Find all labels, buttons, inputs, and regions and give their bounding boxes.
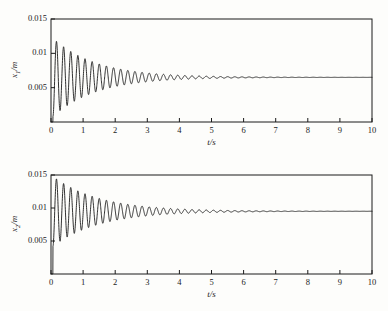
x-axis-label-x1: t/s xyxy=(192,137,232,147)
data-curve-x2 xyxy=(51,179,372,274)
x-tick-label: 10 xyxy=(352,125,388,135)
y-tick-label: 0.015 xyxy=(5,169,47,179)
axis-frame xyxy=(51,19,372,122)
chart-panel-x2: x2/m t/s xyxy=(0,156,388,311)
y-tick-label: 0.005 xyxy=(5,82,47,92)
y-axis-label-unit: /m xyxy=(9,215,19,224)
y-axis-label-base: x xyxy=(9,228,19,232)
y-tick-label: 0.01 xyxy=(5,202,47,212)
plot-area-x2 xyxy=(0,156,388,311)
y-tick-label: 0.015 xyxy=(5,13,47,23)
data-curve-x1 xyxy=(51,41,372,122)
x-axis-label-x2: t/s xyxy=(192,289,232,299)
y-tick-label: 0.01 xyxy=(5,47,47,57)
y-axis-label-base: x xyxy=(9,74,19,78)
figure-damped-response: x1/m t/s x2/m t/s 0123456789100.0050.010… xyxy=(0,0,388,311)
x-tick-label: 10 xyxy=(352,277,388,287)
y-tick-label: 0.005 xyxy=(5,235,47,245)
axis-frame xyxy=(51,175,372,274)
y-axis-label-unit: /m xyxy=(9,61,19,70)
